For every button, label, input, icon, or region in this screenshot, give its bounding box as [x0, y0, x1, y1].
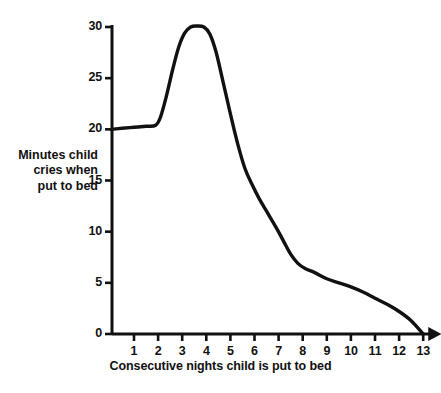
x-tick-label: 13	[408, 345, 438, 358]
chart-axes	[112, 25, 441, 341]
x-axis-title: Consecutive nights child is put to bed	[0, 359, 441, 373]
y-tick-label: 30	[66, 20, 102, 33]
y-tick-label: 15	[66, 174, 102, 187]
y-tick-label: 20	[66, 122, 102, 135]
y-tick-label: 5	[66, 276, 102, 289]
y-tick-label: 10	[66, 225, 102, 238]
x-axis-arrow-icon	[428, 327, 441, 341]
chart-figure: Minutes child cries when put to bed Cons…	[0, 0, 441, 393]
y-tick-label: 0	[66, 327, 102, 340]
y-axis-title: Minutes child cries when put to bed	[6, 148, 98, 194]
chart-tick-marks	[105, 27, 423, 341]
data-series-line	[111, 26, 423, 334]
chart-data-line	[111, 26, 423, 334]
y-tick-label: 25	[66, 71, 102, 84]
